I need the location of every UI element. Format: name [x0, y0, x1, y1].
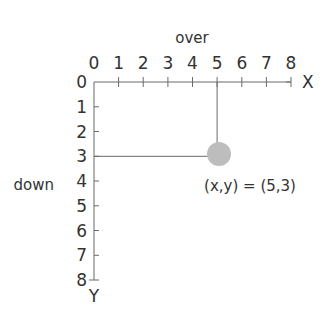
over-label: over [175, 29, 209, 47]
y-tick-labels: 0 1 2 3 4 5 6 7 8 [76, 72, 87, 290]
svg-text:2: 2 [138, 53, 149, 73]
svg-text:4: 4 [187, 53, 198, 73]
svg-text:1: 1 [76, 97, 87, 117]
svg-text:0: 0 [76, 72, 87, 92]
svg-text:3: 3 [162, 53, 173, 73]
svg-text:1: 1 [113, 53, 124, 73]
coordinate-diagram: over down X Y 0 1 2 3 4 5 6 7 8 0 1 2 3 … [0, 0, 331, 328]
svg-text:4: 4 [76, 171, 87, 191]
x-axis-name: X [302, 72, 314, 92]
svg-text:3: 3 [76, 146, 87, 166]
svg-text:5: 5 [76, 196, 87, 216]
point-marker [207, 142, 231, 166]
svg-text:0: 0 [89, 53, 100, 73]
svg-text:7: 7 [76, 245, 87, 265]
svg-text:2: 2 [76, 122, 87, 142]
y-axis-name: Y [88, 286, 100, 306]
point-label: (x,y) = (5,3) [204, 177, 296, 195]
down-label: down [14, 176, 54, 194]
x-tick-labels: 0 1 2 3 4 5 6 7 8 [89, 53, 297, 73]
svg-text:6: 6 [236, 53, 247, 73]
svg-text:8: 8 [286, 53, 297, 73]
svg-text:8: 8 [76, 270, 87, 290]
y-tick-marks [94, 107, 99, 256]
svg-text:5: 5 [212, 53, 223, 73]
svg-text:7: 7 [261, 53, 272, 73]
svg-text:6: 6 [76, 221, 87, 241]
